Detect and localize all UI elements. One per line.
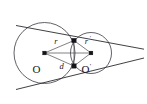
marker-intersection-bottom bbox=[72, 64, 76, 68]
marker-center-O-prime bbox=[89, 51, 93, 55]
label-center-O-prime: O bbox=[82, 63, 90, 75]
geometry-figure: O O ′ r r ′ d bbox=[0, 0, 147, 104]
marker-center-O bbox=[43, 51, 47, 55]
figure-canvas: O O ′ r r ′ d bbox=[0, 0, 147, 104]
marker-intersection-top bbox=[72, 38, 76, 42]
label-center-O: O bbox=[33, 63, 41, 75]
